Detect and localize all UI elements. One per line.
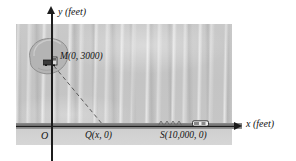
x-axis-label: x (feet) (246, 119, 274, 129)
y-axis-arrowhead (47, 6, 55, 14)
y-axis-line (51, 12, 53, 161)
y-axis-label: y (feet) (58, 7, 86, 17)
figure-canvas: y (feet) x (feet) O M(0, 3000) Q(x, 0) S… (0, 0, 296, 161)
point-label-m: M(0, 3000) (60, 52, 103, 62)
x-axis-line (16, 126, 236, 128)
x-axis-arrowhead (234, 122, 242, 130)
point-label-q: Q(x, 0) (85, 131, 112, 141)
origin-label: O (41, 131, 48, 141)
point-label-s: S(10,000, 0) (160, 131, 207, 141)
